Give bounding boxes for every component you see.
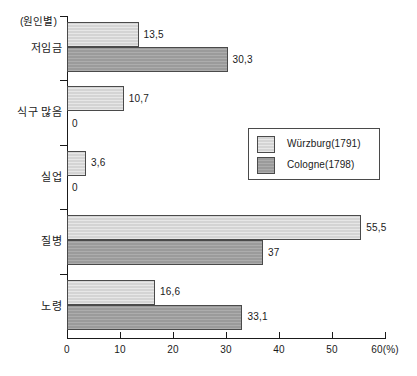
x-axis-tick bbox=[385, 332, 386, 339]
x-axis-tick-label-2: 20 bbox=[167, 344, 179, 355]
x-axis-tick-label-1: 10 bbox=[114, 344, 126, 355]
category-label-4: 노령 bbox=[41, 297, 62, 313]
bar-value-label-4-0: 16,6 bbox=[160, 286, 180, 297]
bar-value-label-0-0: 13,5 bbox=[144, 29, 164, 40]
y-axis-tick bbox=[60, 145, 67, 146]
x-axis-tick bbox=[173, 332, 174, 339]
x-axis-tick bbox=[279, 332, 280, 339]
bar-4-0 bbox=[67, 280, 155, 305]
x-axis-tick-label-3: 30 bbox=[220, 344, 232, 355]
bar-value-label-1-0: 10,7 bbox=[129, 93, 149, 104]
legend-swatch-1 bbox=[257, 157, 275, 174]
x-axis-tick-label-6: 60(%) bbox=[371, 344, 399, 355]
bar-1-0 bbox=[67, 86, 124, 111]
bar-value-label-2-0: 3,6 bbox=[91, 157, 106, 168]
x-axis-tick-label-0: 0 bbox=[64, 344, 70, 355]
y-axis-tick bbox=[60, 209, 67, 210]
bar-value-label-2-1: 0 bbox=[72, 182, 78, 193]
x-axis-tick-label-5: 50 bbox=[326, 344, 338, 355]
bar-value-label-4-1: 33,1 bbox=[247, 311, 267, 322]
legend-swatch-0 bbox=[257, 136, 275, 153]
legend-label-0: Würzburg(1791) bbox=[287, 138, 361, 149]
x-axis-tick bbox=[226, 332, 227, 339]
category-label-0: 저임금 bbox=[31, 39, 62, 55]
category-label-2: 실업 bbox=[41, 168, 62, 184]
category-label-3: 질병 bbox=[41, 232, 62, 248]
bar-chart-figure: (원인별) 저임금식구 많음실업질병노령 13,530,310,703,6055… bbox=[0, 0, 417, 376]
bar-value-label-0-1: 30,3 bbox=[233, 54, 253, 65]
chart-legend: Würzburg(1791)Cologne(1798) bbox=[248, 128, 380, 180]
bar-value-label-3-1: 37 bbox=[268, 247, 280, 258]
y-axis-tick bbox=[60, 274, 67, 275]
y-axis-tick bbox=[60, 16, 67, 17]
bar-4-1 bbox=[67, 305, 242, 330]
x-axis-tick bbox=[120, 332, 121, 339]
legend-label-1: Cologne(1798) bbox=[287, 159, 354, 170]
bar-value-label-3-0: 55,5 bbox=[366, 222, 386, 233]
bar-0-0 bbox=[67, 22, 139, 47]
axis-title: (원인별) bbox=[20, 13, 57, 28]
bar-2-0 bbox=[67, 151, 86, 176]
bar-3-1 bbox=[67, 240, 263, 265]
x-axis-tick bbox=[67, 332, 68, 339]
y-axis-tick bbox=[60, 80, 67, 81]
x-axis-tick bbox=[332, 332, 333, 339]
bar-0-1 bbox=[67, 47, 228, 72]
bar-3-0 bbox=[67, 215, 361, 240]
bar-value-label-1-1: 0 bbox=[72, 118, 78, 129]
category-label-1: 식구 많음 bbox=[17, 103, 62, 119]
x-axis-tick-label-4: 40 bbox=[273, 344, 285, 355]
